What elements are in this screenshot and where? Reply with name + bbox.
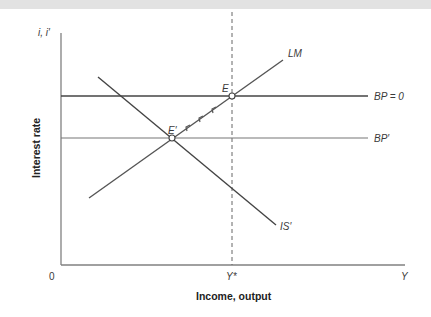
x-tick-ystar: Y*	[226, 271, 238, 282]
is-lm-bp-diagram: i, i′ Interest rate LM BP = 0 BP′ IS′ E …	[0, 0, 431, 317]
point-e-prime-label: E′	[168, 125, 178, 136]
point-e-label: E	[222, 83, 229, 94]
x-origin-label: 0	[49, 271, 55, 282]
bp-prime-label: BP′	[374, 133, 390, 144]
lm-label: LM	[288, 48, 303, 59]
x-axis-end-label: Y	[401, 271, 409, 282]
is-prime-label: IS′	[280, 221, 292, 232]
point-e-marker	[229, 93, 235, 99]
bp0-label: BP = 0	[374, 91, 404, 102]
is-prime-curve	[98, 77, 276, 225]
y-axis-title: Interest rate	[30, 118, 42, 178]
y-axis-symbol: i, i′	[38, 27, 51, 38]
x-axis-title: Income, output	[196, 290, 272, 302]
